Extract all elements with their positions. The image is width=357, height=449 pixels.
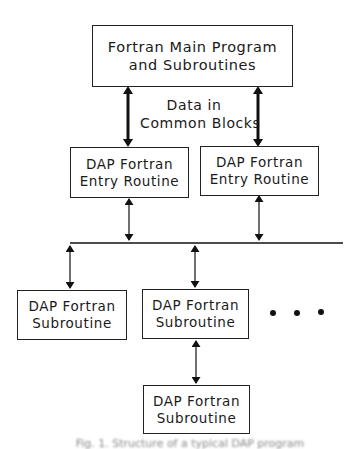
entry-routine-left-line1: DAP Fortran <box>86 156 173 173</box>
subroutine-left-line2: Subroutine <box>32 315 112 332</box>
subroutine-bottom-line2: Subroutine <box>157 410 237 427</box>
subroutine-left-box: DAP Fortran Subroutine <box>17 290 127 340</box>
subroutine-middle-box: DAP Fortran Subroutine <box>142 289 249 339</box>
ellipsis-dot-3 <box>318 309 324 315</box>
main-program-box: Fortran Main Program and Subroutines <box>92 25 293 87</box>
entry-routine-right-box: DAP Fortran Entry Routine <box>200 146 319 196</box>
ellipsis-dot-1 <box>270 310 276 316</box>
subroutine-bottom-box: DAP Fortran Subroutine <box>143 385 250 434</box>
figure-caption: Fig. 1. Structure of a typical DAP progr… <box>60 437 320 449</box>
entry-routine-left-box: DAP Fortran Entry Routine <box>70 147 189 198</box>
common-blocks-label-line1: Data in <box>140 97 248 115</box>
common-blocks-label: Data in Common Blocks <box>140 97 248 132</box>
entry-routine-right-line2: Entry Routine <box>210 171 310 188</box>
common-blocks-label-line2: Common Blocks <box>140 115 248 133</box>
subroutine-left-line1: DAP Fortran <box>28 298 115 315</box>
subroutine-middle-line1: DAP Fortran <box>152 297 239 314</box>
entry-routine-right-line1: DAP Fortran <box>216 154 303 171</box>
entry-routine-left-line2: Entry Routine <box>80 173 180 190</box>
ellipsis-dot-2 <box>294 310 300 316</box>
subroutine-middle-line2: Subroutine <box>156 314 236 331</box>
main-program-line1: Fortran Main Program <box>108 38 277 56</box>
subroutine-bottom-line1: DAP Fortran <box>153 393 240 410</box>
main-program-line2: and Subroutines <box>129 56 257 74</box>
